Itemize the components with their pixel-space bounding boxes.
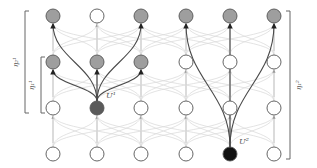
empty-node — [267, 147, 281, 161]
faint-edge — [141, 115, 230, 147]
highlighted-edge — [53, 70, 97, 101]
empty-node — [267, 55, 281, 69]
source-node-u1 — [90, 101, 104, 115]
reached-node — [134, 55, 148, 69]
empty-node — [46, 101, 60, 115]
source-node-u2 — [223, 147, 237, 161]
highlighted-edge — [230, 24, 274, 147]
reached-node — [90, 55, 104, 69]
empty-node — [223, 101, 237, 115]
layered-graph: η₂¹η₁¹η₁² U¹U² — [0, 0, 317, 168]
reached-node — [134, 9, 148, 23]
faint-edge — [141, 115, 186, 147]
faint-edge — [141, 23, 230, 55]
empty-node — [90, 9, 104, 23]
reached-node — [46, 9, 60, 23]
bracket-label-right: η₁² — [295, 80, 303, 90]
faint-edge — [230, 23, 274, 55]
faint-edge — [141, 23, 186, 55]
faint-edge — [97, 23, 141, 55]
empty-node — [179, 55, 193, 69]
faint-edge — [141, 69, 186, 101]
faint-edge — [97, 115, 141, 147]
reached-node — [267, 9, 281, 23]
faint-edge — [186, 115, 230, 147]
network-diagram: η₂¹η₁¹η₁² U¹U² — [0, 0, 317, 168]
reached-node — [179, 9, 193, 23]
source-label-u2: U² — [239, 137, 249, 146]
faint-edge — [97, 115, 186, 147]
source-label-u1: U¹ — [106, 91, 116, 100]
empty-node — [134, 147, 148, 161]
reached-node — [223, 9, 237, 23]
empty-node — [134, 101, 148, 115]
faint-edge — [186, 23, 230, 55]
empty-node — [267, 101, 281, 115]
bracket-outer-left — [25, 11, 29, 113]
bracket-inner-left — [41, 57, 45, 113]
faint-edge — [97, 23, 186, 55]
faint-edge — [230, 115, 274, 147]
faint-edge — [53, 23, 97, 55]
faint-edge — [53, 115, 97, 147]
faint-edge — [141, 69, 230, 101]
bracket-right — [286, 11, 290, 159]
empty-node — [179, 147, 193, 161]
empty-node — [179, 101, 193, 115]
highlighted-edge — [186, 24, 230, 147]
highlighted-edge — [97, 70, 141, 101]
reached-node — [46, 55, 60, 69]
bracket-label-inner-left: η₁¹ — [28, 80, 36, 90]
empty-node — [223, 55, 237, 69]
empty-node — [46, 147, 60, 161]
bracket-label-outer-left: η₂¹ — [12, 57, 20, 67]
empty-node — [90, 147, 104, 161]
background-edges — [53, 23, 274, 147]
